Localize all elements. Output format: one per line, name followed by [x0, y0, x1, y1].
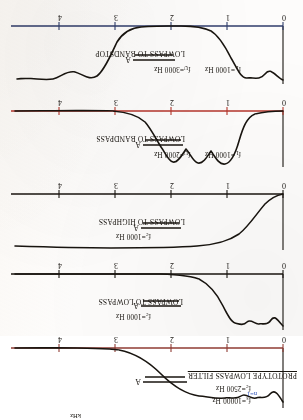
tick-1-bandstop: 1: [226, 13, 230, 22]
panel-lowpass-to-bandpass: LOWPASS TO BANDPASS fL=1000 Hz fU=2000 H…: [0, 85, 303, 171]
plot-lowpass-to-bandstop: [0, 0, 303, 88]
tick-1-highpass: 1: [226, 181, 230, 190]
param-fu-bandpass: fU=2000 Hz: [154, 150, 191, 158]
panel-params-lowpass-lp: fc=1000 Hz: [116, 312, 151, 320]
panel-title-bandstop: LOWPASS TO BANDSTOP: [95, 49, 185, 58]
panel-title-prototype: PROTOTYPE LOWPASS FILTER: [188, 371, 297, 380]
tick-2-lowpass-lp: 2: [170, 261, 174, 270]
tick-0-bandpass: 0: [282, 98, 286, 107]
param-fc-prototype: fc=2500 Hz: [216, 384, 251, 392]
tick-4-highpass: 4: [58, 181, 62, 190]
plot-lowpass-to-lowpass: [0, 250, 303, 336]
amplitude-label-bandstop: A: [125, 55, 131, 64]
param-fc-lowpass-lp: fc=1000 Hz: [116, 312, 151, 320]
panel-params-highpass: fc=1000 Hz: [116, 232, 151, 240]
tick-2-bandpass: 2: [170, 98, 174, 107]
tick-1-bandpass: 1: [226, 98, 230, 107]
panel-lowpass-to-lowpass: LOWPASS TO LOWPASS fc=1000 Hz A 0 1 2 3 …: [0, 250, 303, 336]
tick-4-bandstop: 4: [58, 13, 62, 22]
param-fl-bandpass: fL=1000 Hz: [205, 150, 241, 158]
panel-params-bandstop: fL=1000 Hz fU=3000 Hz: [154, 65, 241, 73]
tick-1-lowpass-lp: 1: [226, 261, 230, 270]
param-fl-bandstop: fL=1000 Hz: [205, 65, 241, 73]
axis-unit-label-khz: kHz: [70, 413, 81, 420]
tick-4-lowpass-lp: 4: [58, 261, 62, 270]
panel-title-highpass: LOWPASS TO HIGHPASS: [99, 217, 185, 226]
tick-3-highpass: 3: [114, 181, 118, 190]
plot-lowpass-to-bandpass: [0, 85, 303, 171]
param-fs-prototype: fs=10000 Hz: [212, 396, 251, 404]
tick-3-bandpass: 3: [114, 98, 118, 107]
param-fc-highpass: fc=1000 Hz: [116, 232, 151, 240]
tick-3-prototype: 3: [114, 335, 118, 344]
tick-2-bandstop: 2: [170, 13, 174, 22]
tick-2-prototype: 2: [170, 335, 174, 344]
amplitude-label-prototype: A: [135, 377, 141, 386]
panel-params-bandpass: fL=1000 Hz fU=2000 Hz: [154, 150, 241, 158]
param-fu-bandstop: fU=3000 Hz: [154, 65, 191, 73]
plot-lowpass-to-highpass: [0, 168, 303, 254]
panel-title-lowpass-lp: LOWPASS TO LOWPASS: [98, 297, 183, 306]
filter-order-label: n=1: [247, 391, 257, 398]
tick-4-bandpass: 4: [58, 98, 62, 107]
tick-3-bandstop: 3: [114, 13, 118, 22]
tick-3-lowpass-lp: 3: [114, 261, 118, 270]
tick-0-highpass: 0: [282, 181, 286, 190]
tick-0-lowpass-lp: 0: [282, 261, 286, 270]
panel-prototype-lowpass-filter: PROTOTYPE LOWPASS FILTER fc=2500 Hz fs=1…: [0, 328, 303, 418]
amplitude-label-bandpass: A: [135, 140, 141, 149]
tick-0-prototype: 0: [282, 335, 286, 344]
tick-1-prototype: 1: [226, 335, 230, 344]
tick-4-prototype: 4: [58, 335, 62, 344]
tick-2-highpass: 2: [170, 181, 174, 190]
panel-lowpass-to-bandstop: LOWPASS TO BANDSTOP fL=1000 Hz fU=3000 H…: [0, 0, 303, 88]
amplitude-label-lowpass-lp: A: [133, 301, 139, 310]
tick-0-bandstop: 0: [282, 13, 286, 22]
panel-lowpass-to-highpass: LOWPASS TO HIGHPASS fc=1000 Hz A 0 1 2 3…: [0, 168, 303, 254]
amplitude-label-highpass: A: [133, 223, 139, 232]
